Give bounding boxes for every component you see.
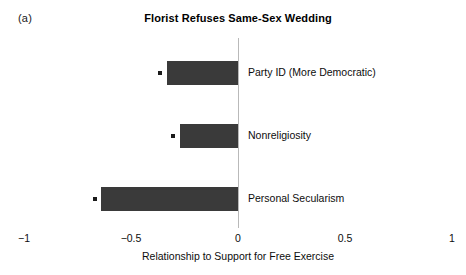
bar	[180, 124, 238, 148]
point-estimate-marker	[158, 71, 162, 75]
bar	[167, 61, 238, 85]
plot-area: Party ID (More Democratic)Nonreligiosity…	[24, 38, 452, 228]
x-axis-label: Relationship to Support for Free Exercis…	[24, 250, 452, 262]
bar-category-label: Party ID (More Democratic)	[248, 66, 376, 78]
point-estimate-marker	[93, 197, 97, 201]
bar-category-label: Nonreligiosity	[248, 129, 311, 141]
x-axis-ticks: −1−0.500.51	[24, 232, 452, 248]
chart-title: Florist Refuses Same-Sex Wedding	[24, 12, 452, 24]
bar-row: Party ID (More Democratic)	[24, 61, 452, 85]
x-axis-tick-label: 1	[449, 232, 455, 244]
x-axis-tick-label: −1	[18, 232, 30, 244]
point-estimate-marker	[171, 134, 175, 138]
bar-category-label: Personal Secularism	[248, 192, 344, 204]
x-axis-tick-label: −0.5	[121, 232, 142, 244]
chart-figure: (a) Florist Refuses Same-Sex Wedding Par…	[0, 0, 466, 275]
x-axis-tick-label: 0	[235, 232, 241, 244]
bar	[101, 187, 238, 211]
bar-row: Nonreligiosity	[24, 124, 452, 148]
bar-row: Personal Secularism	[24, 187, 452, 211]
x-axis-tick-label: 0.5	[338, 232, 353, 244]
